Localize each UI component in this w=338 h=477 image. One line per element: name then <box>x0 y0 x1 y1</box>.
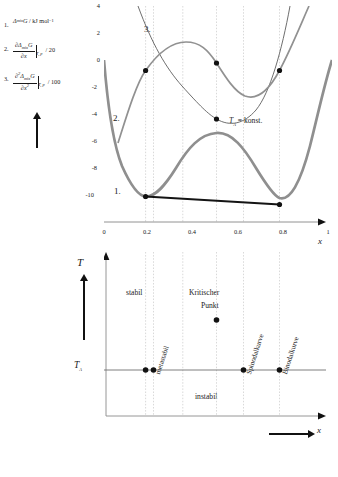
legend-item-3-expression: ∂2ΔmixG ∂x2 T, p / 100 <box>13 72 60 91</box>
top-x-axis <box>104 219 326 226</box>
y-tick-m8: -8 <box>83 164 97 171</box>
legend-item-3-divisor: / 100 <box>48 79 61 86</box>
partial-derivative-fraction: ∂ΔmixG ∂x <box>13 42 35 59</box>
point-metastable-left <box>143 367 149 373</box>
evaluation-subscript: T, p <box>38 83 45 88</box>
point-binodal-left <box>143 194 148 199</box>
legend-item-1-expression: ΔmixG / kJ mol−1 <box>13 18 54 25</box>
point-spinodal-right-derivative <box>277 68 282 73</box>
y-tick-m6: -6 <box>83 137 97 144</box>
legend-item-2-divisor: / 20 <box>46 47 55 54</box>
temperature-up-arrow-icon <box>83 280 85 340</box>
y-tick-0: 0 <box>86 56 100 63</box>
y-tick-m4: -4 <box>83 110 97 117</box>
curve-gibbs-mixing-energy <box>104 60 332 198</box>
gridlines-vertical <box>146 252 280 416</box>
legend-item-3-number: 3. <box>4 72 13 83</box>
legend-item-2-expression: ∂ΔmixG ∂x T, p / 20 <box>13 42 55 59</box>
curve-second-derivative <box>138 6 290 123</box>
point-critical-derivative <box>214 60 219 65</box>
second-derivative-fraction: ∂2ΔmixG ∂x2 <box>13 72 37 91</box>
figure-root: 1. ΔmixG / kJ mol−1 2. ∂ΔmixG ∂x T, p / … <box>0 0 338 477</box>
legend-item-2-number: 2. <box>4 42 13 53</box>
bottom-y-axis <box>104 252 109 416</box>
critical-point-marker <box>214 317 220 323</box>
ta-label: TA <box>74 360 82 372</box>
point-spinodal-right <box>241 367 247 373</box>
y-tick-4: 4 <box>86 2 100 9</box>
y-tick-m2: -2 <box>83 83 97 90</box>
legend-item-1: 1. ΔmixG / kJ mol−1 <box>4 18 100 29</box>
common-tangent-line <box>146 197 280 205</box>
bottom-y-axis-label: T <box>77 256 83 268</box>
y-tick-m10: -10 <box>80 191 94 198</box>
phase-diagram-svg <box>104 252 332 448</box>
evaluation-subscript: T, p <box>36 52 43 57</box>
gibbs-energy-chart: 4 2 0 -2 -4 -6 -8 -10 0 0.2 0.4 0.6 0.8 … <box>104 6 332 238</box>
gibbs-energy-plot-svg <box>104 6 332 238</box>
gridlines-vertical <box>146 6 280 222</box>
point-critical-second-deriv <box>214 116 219 121</box>
legend-up-arrow-icon <box>36 118 38 148</box>
y-tick-2: 2 <box>86 29 100 36</box>
point-spinodal-left <box>151 367 157 373</box>
legend-item-1-number: 1. <box>4 18 13 29</box>
point-binodal-right <box>277 202 282 207</box>
point-spinodal-left-derivative <box>143 68 148 73</box>
phase-diagram-chart: T TA stabil Kritischer Punkt instabil me… <box>104 252 332 448</box>
point-binodal-right <box>277 367 283 373</box>
bottom-x-axis <box>106 413 326 420</box>
